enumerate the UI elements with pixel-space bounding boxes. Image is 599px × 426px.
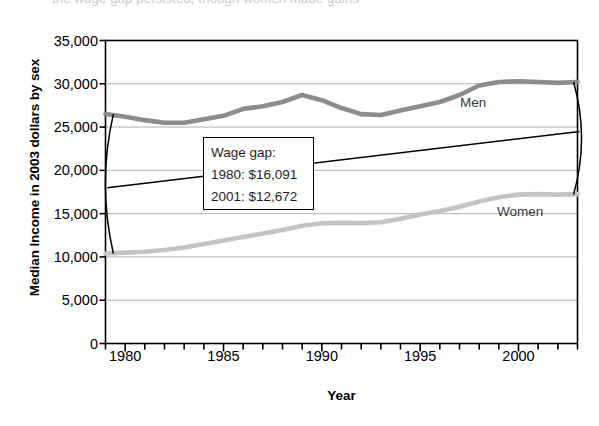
y-tick-label: 20,000: [10, 163, 98, 178]
y-tick-label: 25,000: [10, 120, 98, 135]
gridlines: [106, 84, 578, 300]
plot-frame: [106, 41, 578, 344]
x-axis-tick-labels: 19801985199019952000: [0, 349, 599, 373]
callout-row-1980: 1980: $16,091: [211, 164, 313, 186]
series-label-men: Men: [460, 95, 486, 110]
callout-row-2001: 2001: $12,672: [211, 186, 313, 208]
y-tick-label: 30,000: [10, 77, 98, 92]
x-tick-label: 1995: [390, 349, 450, 364]
brace-left-1980: [105, 114, 113, 253]
series-label-women: Women: [497, 204, 543, 219]
callout-title: Wage gap:: [211, 142, 313, 164]
x-tick-label: 2000: [489, 349, 549, 364]
x-tick-label: 1985: [194, 349, 254, 364]
chart-figure: the wage gap persisted, though women mad…: [0, 0, 599, 426]
x-tick-label: 1980: [95, 349, 155, 364]
wage-gap-callout: Wage gap: 1980: $16,091 2001: $12,672: [203, 137, 314, 210]
y-axis-ticks: [100, 41, 106, 344]
y-tick-label: 15,000: [10, 207, 98, 222]
y-tick-label: 10,000: [10, 250, 98, 265]
y-tick-label: 35,000: [10, 34, 98, 49]
x-tick-label: 1990: [292, 349, 352, 364]
brace-connector-line: [107, 131, 579, 187]
x-axis-title: Year: [105, 388, 578, 403]
y-tick-label: 5,000: [10, 293, 98, 308]
caption-fragment: the wage gap persisted, though women mad…: [52, 0, 472, 7]
series-line-men: [106, 81, 578, 123]
